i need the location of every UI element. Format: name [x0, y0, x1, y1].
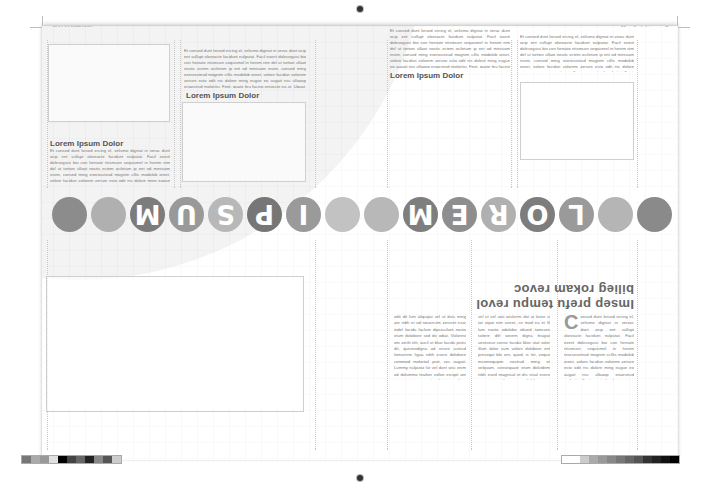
crop-mark	[41, 16, 43, 26]
color-bar-process	[21, 455, 122, 464]
feature-heading-3: Lorem Ipsum Dolor	[50, 139, 170, 148]
column-guide	[511, 40, 512, 188]
column-guide	[517, 40, 518, 188]
article-title: Imsep prefu tempu revol bilieg rokam rev…	[394, 282, 634, 312]
crop-mark	[676, 16, 678, 26]
crop-mark	[678, 26, 690, 28]
feature-body-1b: Et consed dunt lorsed ercing el, velismo…	[520, 34, 634, 72]
column-guide	[557, 240, 558, 450]
circle-letter-l: L	[559, 197, 594, 232]
feature-heading-1: Lorem Ipsum Dolor	[390, 71, 510, 80]
drop-cap: C	[564, 314, 578, 331]
circle-14	[91, 197, 126, 232]
column-guide	[315, 40, 316, 188]
article-column-1: Consed dunt lorsed ercing el, velismo di…	[564, 314, 634, 380]
feature-body-3: Et consed dunt lorsed ercing el, velismo…	[50, 148, 170, 182]
article-title-line2: bilieg rokam revoc	[394, 282, 634, 297]
circle-letter-s: S	[208, 197, 243, 232]
circle-8	[325, 197, 360, 232]
column-guide	[174, 40, 175, 188]
rotated-page-stage: Document Labs 2xxx 22 10/01/2007 17:14:0…	[0, 0, 720, 486]
color-bar-grayscale	[561, 455, 680, 464]
print-sheet: Document Labs 2xxx 22 10/01/2007 17:14:0…	[42, 26, 678, 460]
circle-letter-r: R	[481, 197, 516, 232]
article-column-2: vel ut vel utat wiskerm dat at loree si …	[478, 314, 550, 380]
image-placeholder-3[interactable]	[48, 44, 170, 122]
column-guide	[387, 40, 388, 188]
registration-mark-bottom	[357, 475, 363, 481]
image-placeholder-1[interactable]	[520, 82, 634, 160]
circle-letter-p: P	[247, 197, 282, 232]
circle-letter-u: U	[169, 197, 204, 232]
circle-0	[637, 197, 672, 232]
lorem-ipsum-circles: L O R E M I P S U M	[52, 197, 672, 232]
image-placeholder-large[interactable]	[46, 276, 304, 412]
feature-heading-2: Lorem Ipsum Dolor	[186, 91, 306, 100]
folio-right: 10/01/2007 17:14:05	[52, 26, 93, 28]
column-guide	[637, 240, 638, 450]
folio-left: Document Labs 2xxx 22	[621, 26, 668, 28]
crop-mark	[30, 26, 42, 28]
circle-letter-o: O	[520, 197, 555, 232]
circle-1	[598, 197, 633, 232]
feature-body-1: Et consed dunt lorsed ercing el, velismo…	[390, 28, 510, 68]
image-placeholder-2[interactable]	[182, 102, 306, 182]
column-guide	[315, 240, 316, 450]
column-guide	[387, 240, 388, 450]
circle-letter-m2: M	[130, 197, 165, 232]
article-column-3: odit dit lum aliquipsi vel ut duis ming …	[394, 314, 466, 380]
circle-letter-e: E	[442, 197, 477, 232]
circle-15	[52, 197, 87, 232]
feature-body-2: Et consed dunt lorsed ercing el, velismo…	[184, 48, 306, 88]
column-guide	[471, 240, 472, 450]
circle-letter-i: I	[286, 197, 321, 232]
article-title-line1: Imsep prefu tempu revol	[394, 297, 634, 312]
column-guide	[180, 40, 181, 188]
column-guide	[637, 40, 638, 188]
circle-letter-m: M	[403, 197, 438, 232]
circle-7	[364, 197, 399, 232]
registration-mark-top	[357, 6, 363, 12]
